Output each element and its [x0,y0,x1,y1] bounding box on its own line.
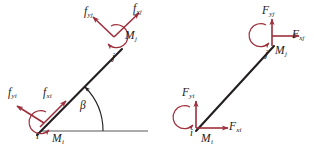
figure-canvas: fyj fxj Mj j fyi fxi i Mi β Fyj Fxj j Mj… [0,0,314,153]
label-beta-angle: β [80,100,86,112]
label-node-j-local: j [112,52,115,63]
label-mi-local: Mi [52,133,64,145]
beta-angle-arc [85,87,103,131]
diagram-vector-layer [0,0,314,153]
moment-arc-mi-global [173,106,193,129]
label-mi-global: Mi [201,133,213,145]
global-panel-graphics [173,19,299,131]
label-mj-local: Mj [125,30,137,42]
moment-arc-mj-global [249,24,269,47]
member-line-global [196,46,274,131]
label-fxj-local: fxj [133,3,142,15]
moment-arc-mi-local [29,111,49,134]
label-node-j-global: j [265,49,268,60]
force-arrow-fyi-local [17,106,44,123]
label-mj-global: Mj [275,45,287,57]
label-fxi-global: Fxi [229,121,241,133]
label-fxi-local: fxi [43,87,52,99]
label-fyi-local: fyi [8,87,17,99]
label-fxj-global: Fxj [292,29,304,41]
label-fyi-global: Fyi [182,87,194,99]
label-node-i-local: i [36,131,39,142]
force-arrow-fyj-local [93,17,114,37]
label-node-i-global: i [190,128,193,139]
label-fyj-local: fyj [84,6,93,18]
label-fyj-global: Fyj [262,5,274,17]
